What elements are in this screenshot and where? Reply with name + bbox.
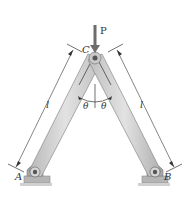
bar-ac xyxy=(29,54,102,177)
length-left-label: l xyxy=(46,99,49,110)
pin-b xyxy=(150,167,160,177)
pin-a xyxy=(30,167,40,177)
bar-bc xyxy=(88,54,161,177)
two-bar-linkage-diagram: P C A B l l θ θ xyxy=(0,0,190,210)
length-right-label: l xyxy=(140,99,143,110)
force-label: P xyxy=(100,25,107,36)
pin-b-label: B xyxy=(163,171,171,182)
pin-c-label: C xyxy=(82,44,90,55)
angle-left-label: θ xyxy=(83,101,89,111)
angle-right-label: θ xyxy=(101,101,107,111)
force-arrow-icon xyxy=(90,25,100,53)
pin-a-label: A xyxy=(14,171,22,182)
pin-c xyxy=(89,52,101,64)
